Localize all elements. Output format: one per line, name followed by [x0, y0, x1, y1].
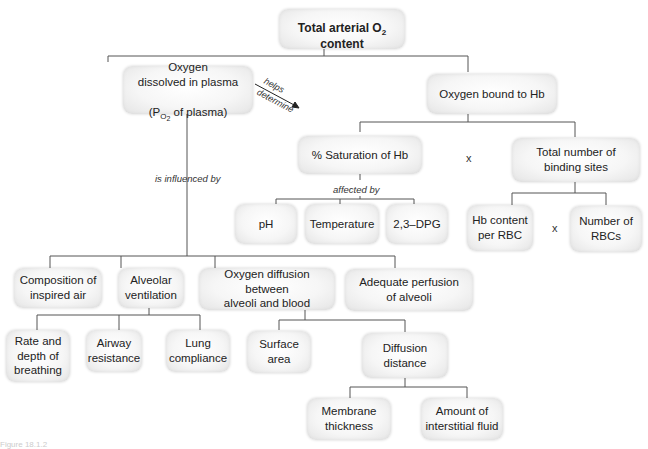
rate-and-depth-of-breathing-node: Rate and depth of breathing [6, 330, 70, 382]
lung-compliance-node: Lung compliance [166, 330, 230, 372]
figure-caption: Figure 18.1.2 [0, 440, 47, 449]
ph-node: pH [235, 204, 297, 244]
dissolved-line3-before: (P [149, 106, 161, 118]
oxygen-diffusion-node: Oxygen diffusion between alveoli and blo… [199, 268, 335, 310]
percent-saturation-of-hb-node: % Saturation of Hb [298, 136, 422, 174]
airway-resistance-node: Airway resistance [86, 330, 142, 372]
number-of-rbcs-node: Number of RBCs [570, 206, 642, 252]
root-text-before: Total arterial O [298, 21, 382, 35]
oxygen-dissolved-in-plasma-node: Oxygen dissolved in plasma (PO2 of plasm… [123, 66, 253, 114]
alveolar-ventilation-node: Alveolar ventilation [118, 268, 184, 308]
root-subscript: 2 [382, 28, 386, 37]
composition-of-inspired-air-node: Composition of inspired air [14, 268, 102, 308]
dissolved-line1: Oxygen [168, 60, 208, 75]
is-influenced-by-label: is influenced by [155, 173, 220, 184]
temperature-node: Temperature [305, 204, 379, 244]
dissolved-line3-after: of plasma) [170, 106, 227, 118]
surface-area-node: Surface area [247, 331, 311, 373]
adequate-perfusion-of-alveoli-node: Adequate perfusion of alveoli [345, 269, 473, 311]
total-number-of-binding-sites-node: Total number of binding sites [512, 138, 640, 182]
2-3-dpg-node: 2,3–DPG [386, 204, 448, 244]
dissolved-line2: dissolved in plasma [138, 75, 238, 90]
total-arterial-o2-content-node: Total arterial O2 content [279, 9, 405, 49]
oxygen-bound-to-hb-node: Oxygen bound to Hb [427, 74, 557, 114]
hb-content-per-rbc-node: Hb content per RBC [467, 205, 533, 251]
root-text-after: content [320, 37, 363, 51]
multiply-operator: x [466, 152, 472, 164]
amount-of-interstitial-fluid-node: Amount of interstitial fluid [421, 398, 503, 440]
membrane-thickness-node: Membrane thickness [307, 398, 391, 440]
diffusion-distance-node: Diffusion distance [362, 333, 448, 378]
dissolved-subscript-o: O2 [160, 112, 170, 121]
multiply-operator-rbc: x [552, 222, 558, 234]
affected-by-label: affected by [333, 184, 379, 195]
